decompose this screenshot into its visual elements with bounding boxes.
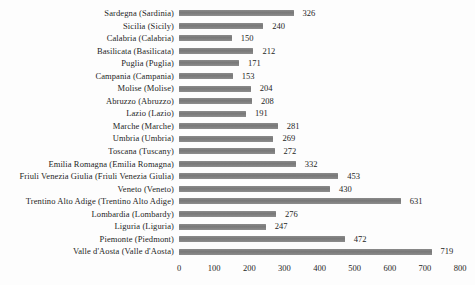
bar — [179, 148, 275, 154]
value-label: 171 — [248, 59, 261, 68]
bar — [179, 23, 263, 29]
category-label: Campania (Campania) — [0, 72, 179, 81]
chart-row: Basilicata (Basilicata)212 — [0, 45, 475, 58]
category-label: Puglia (Puglia) — [0, 59, 179, 68]
bar — [179, 111, 246, 117]
chart-row: Piemonte (Piedmont)472 — [0, 233, 475, 246]
chart-row: Veneto (Veneto)430 — [0, 183, 475, 196]
chart-row: Sicilia (Sicily)240 — [0, 20, 475, 33]
value-label: 332 — [305, 160, 318, 169]
bar — [179, 186, 330, 192]
chart-row: Campania (Campania)153 — [0, 70, 475, 83]
bar-chart: Sardegna (Sardinia)326Sicilia (Sicily)24… — [0, 0, 475, 285]
bar-area: 430 — [179, 183, 475, 196]
value-label: 247 — [275, 222, 288, 231]
bar-area: 631 — [179, 195, 475, 208]
x-axis-tick-label: 500 — [348, 264, 361, 273]
chart-row: Umbria (Umbria)269 — [0, 132, 475, 145]
chart-row: Emilia Romagna (Emilia Romagna)332 — [0, 158, 475, 171]
value-label: 240 — [272, 22, 285, 31]
value-label: 719 — [441, 247, 454, 256]
bar-area: 153 — [179, 70, 475, 83]
x-axis-tick-label: 400 — [313, 264, 326, 273]
category-label: Lombardia (Lombardy) — [0, 210, 179, 219]
category-label: Basilicata (Basilicata) — [0, 47, 179, 56]
category-label: Sicilia (Sicily) — [0, 22, 179, 31]
chart-row: Calabria (Calabria)150 — [0, 32, 475, 45]
value-label: 430 — [339, 185, 352, 194]
bar — [179, 161, 296, 167]
bar-area: 208 — [179, 95, 475, 108]
bar — [179, 173, 338, 179]
value-label: 281 — [287, 122, 300, 131]
x-axis-tick-label: 200 — [243, 264, 256, 273]
chart-row: Lombardia (Lombardy)276 — [0, 208, 475, 221]
bar — [179, 86, 251, 92]
bar — [179, 73, 233, 79]
x-axis-tick-label: 300 — [278, 264, 291, 273]
value-label: 153 — [242, 72, 255, 81]
value-label: 276 — [285, 210, 298, 219]
category-label: Piemonte (Piedmont) — [0, 235, 179, 244]
bar-area: 281 — [179, 120, 475, 133]
bar — [179, 198, 401, 204]
bar — [179, 211, 276, 217]
value-label: 453 — [347, 172, 360, 181]
chart-row: Toscana (Tuscany)272 — [0, 145, 475, 158]
bar-area: 272 — [179, 145, 475, 158]
bar-area: 453 — [179, 170, 475, 183]
chart-row: Puglia (Puglia)171 — [0, 57, 475, 70]
chart-row: Marche (Marche)281 — [0, 120, 475, 133]
category-label: Sardegna (Sardinia) — [0, 9, 179, 18]
bar-area: 269 — [179, 132, 475, 145]
category-label: Abruzzo (Abruzzo) — [0, 97, 179, 106]
value-label: 272 — [284, 147, 297, 156]
bar-area: 150 — [179, 32, 475, 45]
x-axis-tick-label: 0 — [177, 264, 181, 273]
value-label: 631 — [410, 197, 423, 206]
category-label: Lazio (Lazio) — [0, 109, 179, 118]
category-label: Marche (Marche) — [0, 122, 179, 131]
value-label: 191 — [255, 109, 268, 118]
x-axis-tick-label: 700 — [419, 264, 432, 273]
value-label: 150 — [241, 34, 254, 43]
category-label: Friuli Venezia Giulia (Friuli Venezia Gi… — [0, 172, 179, 181]
chart-row: Abruzzo (Abruzzo)208 — [0, 95, 475, 108]
chart-row: Lazio (Lazio)191 — [0, 107, 475, 120]
bar-area: 332 — [179, 158, 475, 171]
bar-area: 240 — [179, 20, 475, 33]
x-axis: 0100200300400500600700800 — [179, 264, 460, 276]
value-label: 326 — [303, 9, 316, 18]
bar-area: 204 — [179, 82, 475, 95]
bar — [179, 60, 239, 66]
chart-row: Friuli Venezia Giulia (Friuli Venezia Gi… — [0, 170, 475, 183]
category-label: Liguria (Liguria) — [0, 222, 179, 231]
chart-row: Sardegna (Sardinia)326 — [0, 7, 475, 20]
x-axis-tick-label: 800 — [454, 264, 467, 273]
x-axis-tick-label: 600 — [383, 264, 396, 273]
category-label: Umbria (Umbria) — [0, 134, 179, 143]
value-label: 269 — [282, 134, 295, 143]
chart-row: Molise (Molise)204 — [0, 82, 475, 95]
category-label: Valle d'Aosta (Valle d'Aosta) — [0, 247, 179, 256]
category-label: Molise (Molise) — [0, 84, 179, 93]
bar — [179, 10, 294, 16]
bar-area: 276 — [179, 208, 475, 221]
category-label: Veneto (Veneto) — [0, 185, 179, 194]
category-label: Emilia Romagna (Emilia Romagna) — [0, 160, 179, 169]
bar-area: 191 — [179, 107, 475, 120]
chart-row: Trentino Alto Adige (Trentino Alto Adige… — [0, 195, 475, 208]
bar-area: 472 — [179, 233, 475, 246]
bar — [179, 98, 252, 104]
bar-area: 171 — [179, 57, 475, 70]
chart-row: Valle d'Aosta (Valle d'Aosta)719 — [0, 245, 475, 258]
chart-row: Liguria (Liguria)247 — [0, 220, 475, 233]
value-label: 204 — [260, 84, 273, 93]
category-label: Toscana (Tuscany) — [0, 147, 179, 156]
bar-area: 247 — [179, 220, 475, 233]
bar-area: 326 — [179, 7, 475, 20]
bar — [179, 48, 253, 54]
value-label: 472 — [354, 235, 367, 244]
bar — [179, 123, 278, 129]
chart-rows: Sardegna (Sardinia)326Sicilia (Sicily)24… — [0, 7, 475, 258]
